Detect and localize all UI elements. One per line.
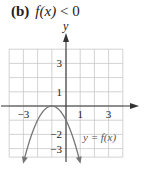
y-tick-label: −2 <box>50 128 62 140</box>
curve-label: y = f(x) <box>82 131 116 144</box>
plot-area: y −31331−2−3y = f(x) <box>0 0 145 183</box>
x-axis-arrow-icon <box>130 103 139 109</box>
y-axis-arrow-icon <box>63 33 69 42</box>
x-tick-label: 3 <box>106 108 112 120</box>
y-tick-label: 3 <box>57 57 63 69</box>
y-tick-label: 1 <box>57 86 63 98</box>
axes: y <box>1 19 139 162</box>
y-tick-label: −3 <box>50 143 62 155</box>
x-tick-label: −3 <box>18 108 30 120</box>
y-axis-name: y <box>62 19 69 33</box>
x-tick-label: 1 <box>77 108 83 120</box>
